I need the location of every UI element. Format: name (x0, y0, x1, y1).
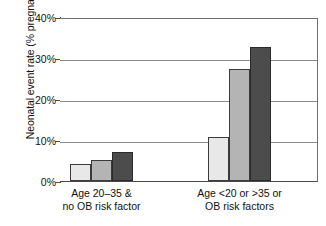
y-tick-label-40: 40% (10, 13, 56, 23)
plot-area (60, 18, 318, 182)
bar-group1-series2 (91, 160, 112, 181)
x-category-label-line: OB risk factors (160, 200, 320, 213)
gridline-10 (60, 142, 317, 143)
y-tick-label-30: 30% (10, 54, 56, 64)
x-category-label-2: Age <20 or >35 orOB risk factors (160, 187, 320, 212)
y-tick-mark-0 (55, 182, 60, 183)
x-category-label-line: no OB risk factor (22, 200, 182, 213)
y-tick-label-10: 10% (10, 136, 56, 146)
x-category-label-1: Age 20–35 &no OB risk factor (22, 187, 182, 212)
gridline-20 (60, 101, 317, 102)
gridline-30 (60, 60, 317, 61)
x-category-label-line: Age <20 or >35 or (160, 187, 320, 200)
bar-group2-series2 (229, 69, 250, 181)
bar-group2-series1 (208, 137, 229, 181)
y-tick-label-0: 0% (10, 177, 56, 187)
x-category-label-line: Age 20–35 & (22, 187, 182, 200)
bar-chart: Neonatal event rate (% pregnancies) 40%3… (0, 0, 326, 226)
y-tick-label-20: 20% (10, 95, 56, 105)
bar-group2-series3 (250, 47, 271, 181)
bar-group1-series1 (70, 164, 91, 181)
bar-group1-series3 (112, 152, 133, 181)
